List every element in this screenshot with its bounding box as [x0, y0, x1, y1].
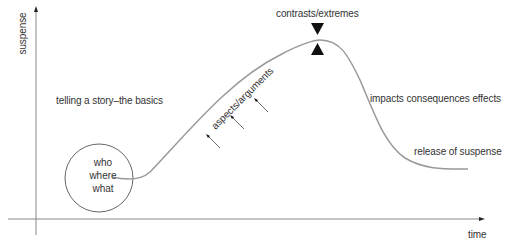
circle-line-who: who [78, 156, 128, 169]
falling-label: impacts consequences effects [370, 93, 501, 104]
intro-label: telling a story–the basics [56, 95, 163, 106]
y-axis-arrow-icon [34, 6, 38, 12]
y-axis-label: suspense [17, 9, 28, 59]
circle-text: who where what [78, 156, 128, 195]
aspect-arrow-3 [256, 100, 268, 112]
circle-line-what: what [78, 182, 128, 195]
diagram-canvas [0, 0, 508, 248]
x-axis-label: time [468, 229, 487, 240]
aspect-arrow-2 [232, 117, 244, 129]
x-axis-arrow-icon [479, 217, 485, 221]
resolution-label: release of suspense [414, 146, 502, 157]
circle-line-where: where [78, 169, 128, 182]
climax-label: contrasts/extremes [276, 8, 359, 19]
suspense-curve [112, 40, 468, 179]
climax-marker-up-icon [311, 43, 324, 55]
aspect-arrow-1 [208, 136, 220, 148]
climax-marker-down-icon [311, 23, 324, 35]
